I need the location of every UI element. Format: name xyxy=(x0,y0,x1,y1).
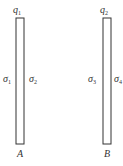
parallel-plates-diagram: q1 q2 σ1 σ2 σ3 σ4 A B xyxy=(0,0,123,166)
density-label-sigma3: σ3 xyxy=(88,73,96,85)
plate-a xyxy=(16,18,24,144)
plate-name-b: B xyxy=(104,148,110,159)
charge-label-a: q1 xyxy=(13,4,21,16)
density-label-sigma4: σ4 xyxy=(114,73,122,85)
density-label-sigma2: σ2 xyxy=(29,73,37,85)
charge-label-b: q2 xyxy=(100,4,108,16)
plate-name-a: A xyxy=(16,148,24,159)
density-label-sigma1: σ1 xyxy=(3,73,11,85)
plate-b xyxy=(103,18,111,144)
